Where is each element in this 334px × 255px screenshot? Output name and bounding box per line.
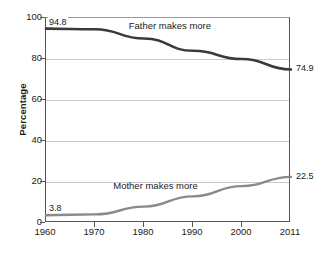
line-father-makes-more (46, 29, 291, 70)
value-label-father-end: 74.9 (295, 63, 315, 73)
y-tick-label-40: 40 (8, 135, 42, 145)
x-tick-label-2011: 2011 (268, 227, 312, 237)
plot-area (45, 17, 290, 222)
value-label-father-start: 94.8 (48, 17, 68, 27)
y-tick-label-100: 100 (8, 12, 42, 22)
y-tick-mark-0 (40, 222, 45, 223)
annotation-father-makes-more: Father makes more (129, 20, 211, 31)
x-tick-label-2000: 2000 (219, 227, 263, 237)
y-tick-label-60: 60 (8, 94, 42, 104)
chart-container: Percentage 020406080100 1960197019801990… (0, 0, 334, 255)
x-tick-label-1980: 1980 (121, 227, 165, 237)
y-tick-label-20: 20 (8, 176, 42, 186)
x-tick-label-1970: 1970 (72, 227, 116, 237)
series-layer (46, 18, 291, 223)
x-tick-label-1990: 1990 (170, 227, 214, 237)
value-label-mother-start: 3.8 (48, 203, 63, 213)
x-tick-label-1960: 1960 (23, 227, 67, 237)
y-tick-label-80: 80 (8, 53, 42, 63)
value-label-mother-end: 22.5 (295, 171, 315, 181)
annotation-mother-makes-more: Mother makes more (113, 180, 197, 191)
